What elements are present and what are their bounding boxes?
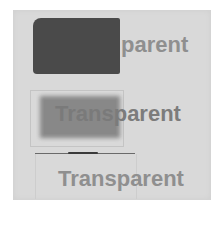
sample-row-transparent: Transparent (13, 150, 211, 210)
film-edge-highlight (68, 152, 98, 154)
semi-transparent-swatch (40, 96, 120, 138)
sample-label: parent (121, 32, 188, 58)
sample-row-opaque: parent (13, 10, 211, 70)
sample-card: parent Transparent Transparent (13, 10, 211, 200)
opaque-swatch (33, 18, 120, 74)
sample-row-semi-transparent: Transparent (13, 85, 211, 145)
sample-label: Transparent (58, 166, 184, 192)
